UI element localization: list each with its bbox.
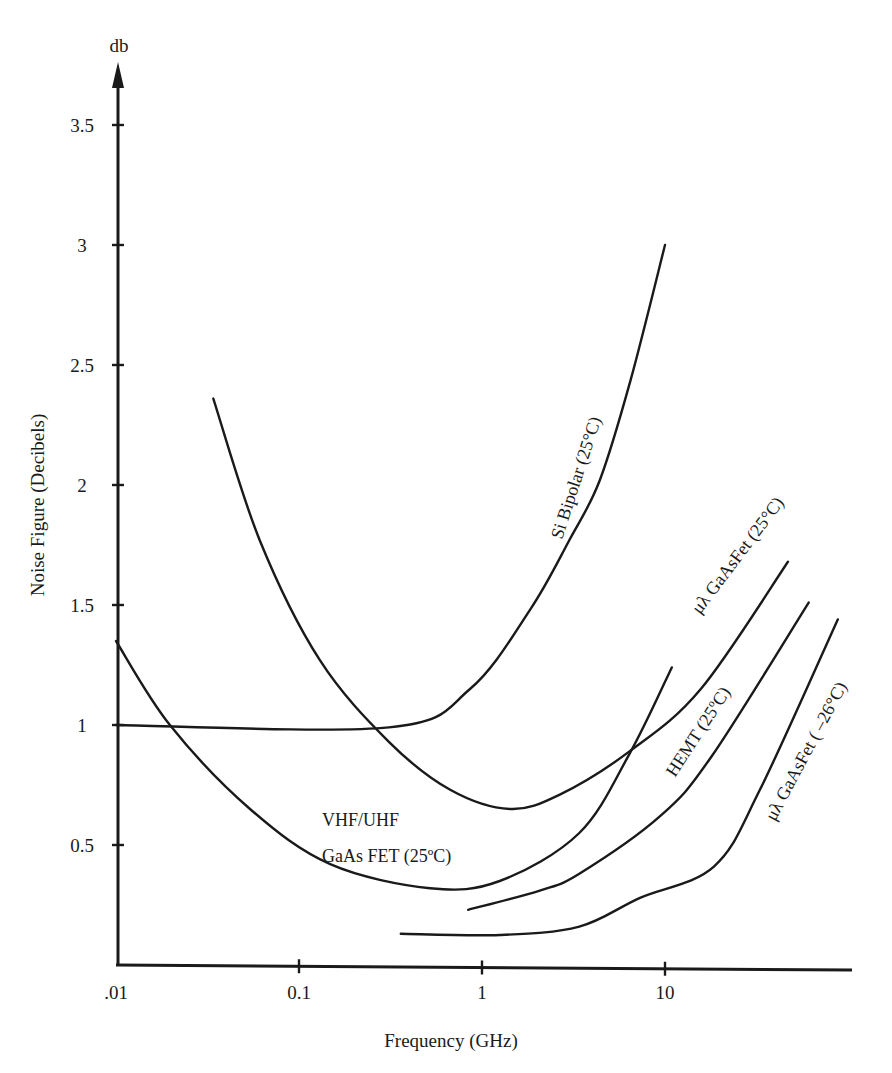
x-tick-label: 1 — [477, 982, 487, 1003]
y-tick-label: 1 — [77, 715, 87, 736]
curves — [116, 245, 838, 935]
y-tick-label: 3 — [77, 235, 87, 256]
x-tick-label: .01 — [104, 982, 128, 1003]
label-hemt: HEMT (25ºC) — [662, 683, 736, 781]
label-si-bipolar: Si Bipolar (25°C) — [547, 414, 606, 541]
y-unit-label: db — [110, 35, 129, 56]
y-tick-label: 2.5 — [70, 355, 94, 376]
x-tick-label: 0.1 — [287, 982, 311, 1003]
x-axis-title: Frequency (GHz) — [384, 1030, 517, 1052]
label-ul-gaasfet-m26: μλ GaAsFet ( –26°C) — [761, 678, 852, 824]
y-axis-arrow-icon — [112, 62, 124, 88]
curve-hemt-25c — [468, 603, 809, 910]
y-tick-label: 0.5 — [70, 835, 94, 856]
y-axis-title: Noise Figure (Decibels) — [27, 414, 49, 597]
y-tick-label: 1.5 — [70, 595, 94, 616]
y-ticks: 0.511.522.533.5 — [70, 115, 124, 856]
label-ul-gaasfet-25: μλ GaAsFet (25°C) — [687, 493, 788, 618]
x-tick-label: 10 — [656, 982, 675, 1003]
y-tick-label: 2 — [77, 475, 87, 496]
y-tick-label: 3.5 — [70, 115, 94, 136]
label-vhf-line2: GaAs FET (25ºC) — [322, 846, 451, 867]
axes — [112, 62, 852, 970]
noise-figure-chart: 0.511.522.533.5 .010.1110 db Noise Figur… — [0, 0, 892, 1073]
label-vhf-line1: VHF/UHF — [322, 810, 399, 830]
x-axis-line — [116, 965, 852, 970]
